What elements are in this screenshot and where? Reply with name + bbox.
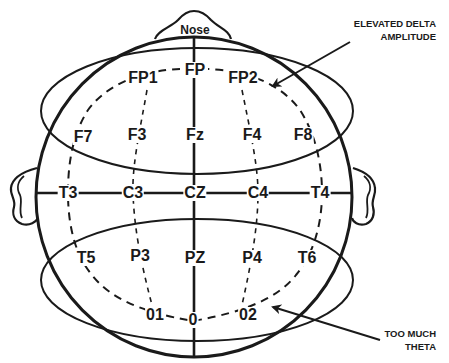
electrode-c3: C3	[122, 185, 144, 201]
electrode-t3: T3	[58, 185, 79, 201]
electrode-f3: F3	[127, 127, 148, 143]
delta-annotation-line-1: ELEVATED DELTA	[354, 17, 436, 30]
electrode-f8: F8	[293, 127, 314, 143]
nose-label: Nose	[179, 24, 210, 36]
electrode-fp2: FP2	[227, 70, 258, 86]
delta-annotation: ELEVATED DELTA AMPLITUDE	[354, 17, 436, 43]
electrode-c4: C4	[247, 185, 269, 201]
electrode-t6: T6	[297, 250, 318, 266]
electrode-f7: F7	[73, 129, 94, 145]
electrode-t5: T5	[76, 250, 97, 266]
left-ear	[11, 168, 38, 225]
electrode-o1: 01	[145, 307, 165, 323]
electrode-cz: CZ	[183, 185, 206, 201]
theta-annotation-line-2: THETA	[384, 340, 436, 353]
theta-annotation-line-1: TOO MUCH	[384, 327, 436, 340]
right-ear	[352, 168, 375, 225]
electrode-fz: Fz	[185, 127, 205, 143]
electrode-fp1: FP1	[127, 70, 158, 86]
electrode-f4: F4	[242, 127, 263, 143]
delta-annotation-line-2: AMPLITUDE	[354, 30, 436, 43]
electrode-o2: 02	[238, 307, 258, 323]
theta-annotation: TOO MUCH THETA	[384, 327, 436, 353]
eeg-head-diagram: Nose FP1 FP FP2 F7 F3 Fz F4 F8 T3 C3 CZ …	[0, 0, 449, 363]
electrode-fp: FP	[184, 62, 206, 78]
electrode-o: 0	[188, 312, 199, 328]
delta-arrow	[273, 42, 350, 86]
electrode-pz: PZ	[184, 250, 206, 266]
head-outline-graphic	[0, 0, 449, 363]
electrode-p4: P4	[241, 250, 263, 266]
electrode-t4: T4	[310, 185, 331, 201]
electrode-p3: P3	[129, 248, 151, 264]
